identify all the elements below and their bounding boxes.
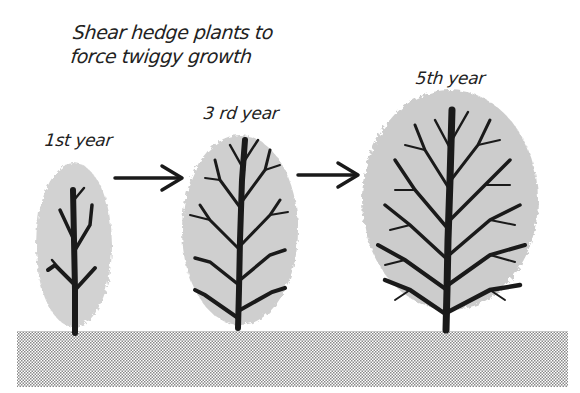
tree-3rd-year — [182, 135, 298, 328]
hedge-growth-illustration — [0, 0, 580, 393]
ground-strip — [17, 331, 568, 387]
arrow-icon — [298, 163, 358, 187]
arrow-icon — [115, 166, 182, 190]
tree-5th-year — [362, 90, 538, 330]
tree-1st-year — [36, 163, 112, 333]
